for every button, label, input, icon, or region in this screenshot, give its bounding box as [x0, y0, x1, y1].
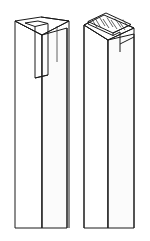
right-board-front-face — [84, 25, 108, 228]
left-board-side-face — [42, 28, 67, 228]
left-board-front-face — [15, 21, 42, 228]
technical-illustration: Woodworking joint exploded view Two long… — [0, 0, 150, 241]
left-board — [15, 17, 69, 228]
right-board — [84, 13, 134, 228]
line-drawing-svg — [0, 0, 150, 241]
right-board-side-face — [108, 34, 134, 228]
